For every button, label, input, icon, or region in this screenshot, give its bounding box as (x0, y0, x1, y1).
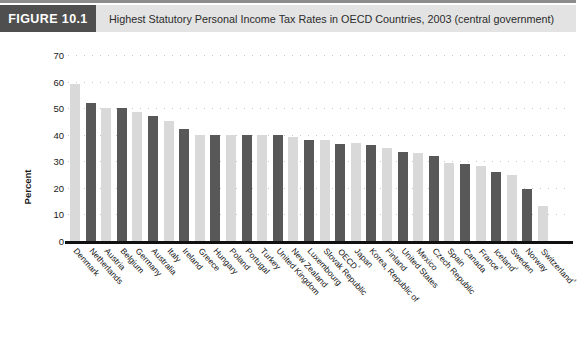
bar (195, 135, 205, 241)
x-axis-labels: DenmarkNetherlandsAustriaBelgiumGermanyA… (68, 246, 576, 346)
plot-region (68, 55, 571, 241)
y-tick-label: 30 (36, 156, 64, 167)
bar (148, 116, 158, 241)
bar (351, 143, 361, 241)
chart-area: Percent 010203040506070 DenmarkNetherlan… (0, 32, 576, 346)
bar (164, 121, 174, 241)
bar (538, 206, 548, 241)
bar (288, 137, 298, 241)
y-axis-ticks: 010203040506070 (36, 32, 64, 346)
bar (429, 156, 439, 241)
bar (70, 84, 80, 241)
y-tick-label: 50 (36, 103, 64, 114)
bar (304, 140, 314, 241)
y-tick-label: 0 (36, 236, 64, 247)
y-tick-label: 40 (36, 129, 64, 140)
bar (460, 164, 470, 241)
figure-header: FIGURE 10.1 Highest Statutory Personal I… (0, 5, 576, 32)
bar (444, 163, 454, 241)
bar-series (68, 55, 571, 241)
y-tick-label: 70 (36, 50, 64, 61)
bar (257, 135, 267, 241)
bar (491, 172, 501, 241)
bar (226, 135, 236, 241)
bar (86, 103, 96, 241)
x-axis-line (65, 241, 573, 244)
figure-number-badge: FIGURE 10.1 (0, 5, 96, 32)
bar (335, 144, 345, 241)
y-tick-label: 10 (36, 209, 64, 220)
bar (382, 148, 392, 241)
bar (273, 135, 283, 241)
bar (366, 145, 376, 241)
bar (242, 135, 252, 241)
bar (476, 166, 486, 241)
header-top-rule (0, 0, 576, 3)
bar (117, 108, 127, 241)
bar (210, 135, 220, 241)
bar (320, 140, 330, 241)
y-tick-label: 60 (36, 76, 64, 87)
y-tick-label: 20 (36, 182, 64, 193)
bar (522, 189, 532, 241)
bar (507, 175, 517, 241)
bar (413, 153, 423, 241)
bar (398, 152, 408, 241)
bar (132, 112, 142, 241)
figure-title: Highest Statutory Personal Income Tax Ra… (96, 5, 576, 32)
y-axis-title: Percent (22, 170, 33, 205)
bar (101, 108, 111, 241)
bar (179, 129, 189, 241)
